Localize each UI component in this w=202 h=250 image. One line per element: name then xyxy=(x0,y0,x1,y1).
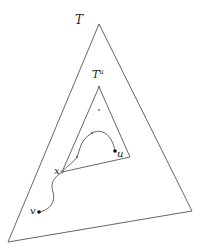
node-mid2 xyxy=(91,132,93,134)
label-u: u xyxy=(117,148,123,159)
label-v: v xyxy=(30,205,36,216)
node-mid1 xyxy=(76,156,78,158)
node-apex-inner xyxy=(98,86,100,88)
label-Tu-sup: u xyxy=(99,68,104,76)
node-interior xyxy=(98,109,100,111)
label-Tu: Tu xyxy=(92,68,104,81)
node-x xyxy=(61,171,64,174)
inner-triangle-Tu xyxy=(62,87,130,172)
label-T: T xyxy=(75,13,84,27)
tree-diagram: T Tu x u v xyxy=(0,0,202,250)
node-v xyxy=(37,210,41,214)
label-x: x xyxy=(54,165,60,176)
path-x-to-v xyxy=(39,172,62,212)
